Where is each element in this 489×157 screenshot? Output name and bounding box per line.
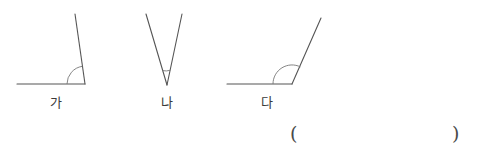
figure-na-left-ray [146, 14, 167, 85]
figure-na-right-ray [167, 14, 182, 85]
angle-figures-canvas [0, 0, 489, 157]
figure-label-da: 다 [247, 96, 287, 109]
figure-ga-angle-arc [67, 66, 82, 84]
figure-label-ga: 가 [36, 96, 76, 109]
figure-label-na: 나 [147, 96, 187, 109]
figure-ga-slanted-ray [75, 14, 85, 84]
answer-close-paren: ) [452, 124, 459, 143]
figure-na-angle-arc [163, 70, 171, 71]
answer-open-paren: ( [290, 124, 297, 143]
figure-da [227, 18, 321, 84]
figure-ga [17, 14, 85, 84]
figure-da-slanted-ray [292, 18, 321, 84]
figure-na [146, 14, 182, 85]
